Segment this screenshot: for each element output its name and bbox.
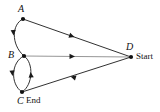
edge-d-to-c	[22, 57, 131, 92]
vertex-label-c: C	[17, 96, 24, 106]
edge-c-to-b	[22, 56, 34, 92]
vertex-c[interactable]	[20, 90, 24, 94]
arrowhead-b-to-d	[69, 54, 75, 59]
arrowhead-a-to-d	[68, 33, 75, 40]
vertex-label-d: D	[126, 42, 133, 52]
start-label: Start	[136, 52, 153, 61]
vertex-b[interactable]	[22, 54, 26, 58]
vertex-label-a: A	[18, 4, 24, 14]
arrowhead-c-to-b	[28, 72, 34, 78]
edge-layer	[9, 19, 131, 92]
edge-b-to-d	[24, 54, 131, 59]
edge-a-to-d	[23, 19, 131, 57]
arrowhead-a-to-b	[11, 30, 17, 36]
arrowhead-b-to-c	[9, 70, 15, 76]
edge-b-to-c	[9, 56, 24, 92]
end-label: End	[26, 96, 41, 105]
vertex-label-b: B	[8, 50, 14, 60]
vertex-d[interactable]	[129, 55, 133, 59]
vertex-layer	[20, 17, 133, 94]
diagram-canvas: A B C D Start End	[0, 0, 160, 112]
vertex-a[interactable]	[21, 17, 25, 21]
